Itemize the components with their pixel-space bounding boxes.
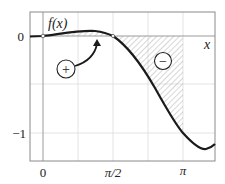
x-tick-0: 0 (40, 165, 47, 180)
x-tick-half-pi: π/2 (105, 165, 122, 180)
y-tick-minus-1: −1 (12, 126, 26, 141)
arrow-head-icon (93, 39, 101, 46)
y-axis-label: f(x) (48, 16, 68, 32)
minus-sign: − (159, 54, 167, 69)
function-curve (30, 31, 215, 149)
x-axis-label: x (203, 37, 211, 52)
root-point (111, 34, 114, 37)
y-tick-0: 0 (18, 29, 25, 44)
plus-sign: + (62, 62, 70, 77)
origin-point (41, 34, 45, 38)
x-tick-pi: π (180, 163, 187, 178)
function-plot: + − f(x) x 0 −1 0 π/2 π (0, 0, 225, 184)
